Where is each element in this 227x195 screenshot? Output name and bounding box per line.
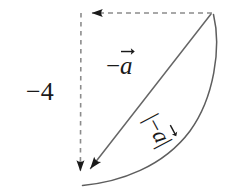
- scalar-label: −4: [26, 79, 54, 105]
- left-dashed-segment: [80, 13, 81, 171]
- neg-a-vector-accent-group: a: [120, 53, 133, 78]
- magnitude-arc: [83, 15, 217, 186]
- vector-neg-a-label: −a: [106, 53, 133, 78]
- vector-diagram-figure: −4 −a |−a|: [0, 0, 227, 195]
- neg-a-letter: a: [120, 53, 133, 78]
- scalar-value: −4: [26, 77, 54, 106]
- neg-a-minus-sign: −: [106, 52, 120, 79]
